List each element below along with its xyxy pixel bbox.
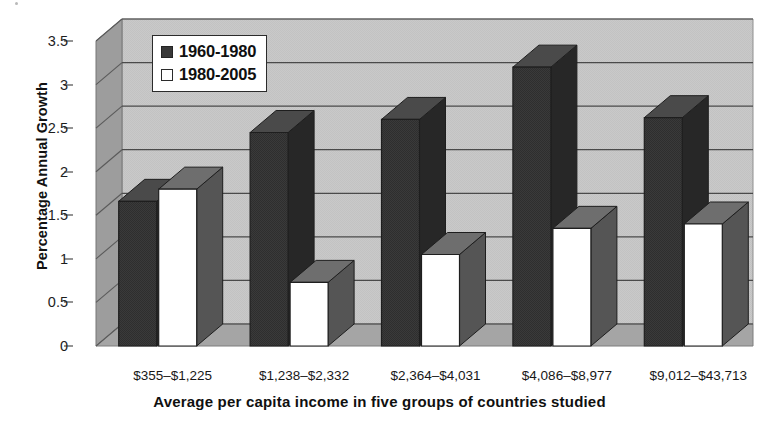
legend-entry-0: 1960-1980	[161, 40, 256, 63]
x-axis-category-labels: $355–$1,225$1,238–$2,332$2,364–$4,031$4,…	[0, 368, 759, 388]
x-axis-category-label: $9,012–$43,713	[649, 368, 747, 383]
legend-label-1: 1980-2005	[179, 65, 256, 84]
x-axis-category-label: $355–$1,225	[133, 368, 212, 383]
legend-label-0: 1960-1980	[179, 42, 256, 61]
x-axis-title: Average per capita income in five groups…	[0, 393, 759, 410]
plot-area	[0, 0, 759, 421]
bar-chart: Percentage Annual Growth 00.511.522.533.…	[0, 0, 759, 421]
legend-swatch-light-icon	[161, 69, 173, 81]
chart-legend: 1960-1980 1980-2005	[152, 35, 267, 92]
x-axis-category-label: $4,086–$8,977	[522, 368, 612, 383]
legend-entry-1: 1980-2005	[161, 63, 256, 86]
legend-swatch-dark-icon	[161, 46, 173, 58]
x-axis-category-label: $1,238–$2,332	[259, 368, 349, 383]
x-axis-category-label: $2,364–$4,031	[390, 368, 480, 383]
